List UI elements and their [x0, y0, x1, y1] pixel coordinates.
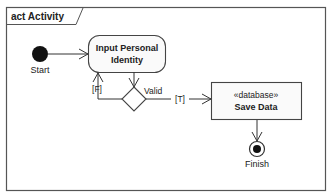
save-action-stereotype: «database» — [234, 90, 279, 100]
finish-node[interactable]: Finish — [245, 142, 269, 170]
input-action-line2: Identity — [111, 55, 143, 65]
frame-label: act Activity — [11, 11, 64, 22]
save-action-label: Save Data — [234, 102, 278, 112]
input-personal-identity-action[interactable]: Input Personal Identity — [89, 36, 166, 73]
decision-label: Valid — [144, 86, 163, 96]
input-action-line1: Input Personal — [96, 43, 159, 53]
save-data-action[interactable]: «database» Save Data — [212, 83, 302, 120]
start-label: Start — [30, 65, 50, 75]
true-guard-label: [T] — [175, 94, 185, 104]
activity-diagram: act Activity Start Input Personal Identi… — [0, 0, 330, 193]
finish-label: Finish — [245, 159, 269, 169]
false-guard-label: [F] — [92, 84, 102, 94]
start-node[interactable]: Start — [30, 46, 50, 75]
